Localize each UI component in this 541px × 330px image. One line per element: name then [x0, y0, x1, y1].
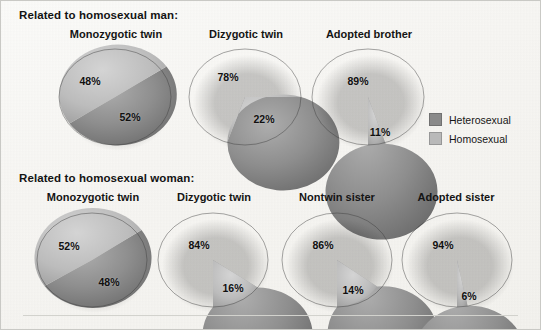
- pie-value-label: 84%: [188, 239, 209, 251]
- legend-item-homosexual: Homosexual: [429, 132, 511, 145]
- pie-title-mono-twin-man: Monozygotic twin: [70, 28, 162, 40]
- legend-label-homosexual: Homosexual: [449, 133, 507, 145]
- pie-chart-nontwin-sister: 86% 14%: [281, 212, 397, 314]
- legend-item-heterosexual: Heterosexual: [429, 113, 511, 126]
- pie-value-label: 14%: [342, 284, 363, 296]
- pie-chart-dizygotic-twin-man: 78% 22%: [188, 47, 304, 151]
- pie-value-label: 6%: [461, 290, 476, 302]
- pie-title-adopted-sister: Adopted sister: [417, 191, 494, 203]
- pie-title-dizygotic-twin-woman: Dizygotic twin: [177, 191, 251, 203]
- pie-chart-adopted-brother: 89% 11%: [311, 47, 427, 151]
- pie-value-label: 11%: [370, 126, 390, 138]
- pie-title-nontwin-sister: Nontwin sister: [299, 191, 375, 203]
- legend-label-heterosexual: Heterosexual: [449, 114, 511, 126]
- pie-title-dizygotic-twin-man: Dizygotic twin: [209, 28, 283, 40]
- pie-title-adopted-brother: Adopted brother: [326, 28, 412, 40]
- pie-value-label: 89%: [347, 75, 368, 87]
- pie-chart-adopted-sister: 94% 6%: [401, 212, 517, 314]
- pie-value-label: 16%: [222, 282, 243, 294]
- pie-value-label: 48%: [98, 276, 119, 288]
- pie-chart-dizygotic-twin-woman: 84% 16%: [157, 212, 273, 314]
- pie-value-label: 52%: [119, 111, 140, 123]
- section-heading-woman: Related to homosexual woman:: [19, 172, 194, 184]
- pie-value-label: 94%: [432, 239, 453, 251]
- pie-value-label: 86%: [312, 239, 333, 251]
- legend: Heterosexual Homosexual: [429, 113, 511, 151]
- pie-value-label: 52%: [58, 240, 79, 252]
- bottom-divider: [23, 315, 518, 316]
- pie-value-label: 22%: [253, 113, 274, 125]
- pie-value-label: 48%: [79, 75, 100, 87]
- legend-swatch-homosexual: [429, 132, 442, 145]
- pie-chart-mono-twin-woman: 52% 48%: [36, 212, 152, 314]
- section-heading-man: Related to homosexual man:: [19, 9, 178, 21]
- figure-panel: Related to homosexual man: Monozygotic t…: [0, 0, 541, 330]
- pie-title-mono-twin-woman: Monozygotic twin: [47, 191, 139, 203]
- legend-swatch-heterosexual: [429, 113, 442, 126]
- pie-value-label: 78%: [217, 71, 238, 83]
- pie-chart-mono-twin-man: 48% 52%: [58, 47, 174, 151]
